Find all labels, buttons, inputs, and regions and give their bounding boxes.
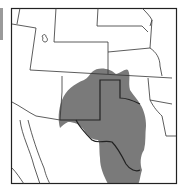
- range-map: [0, 0, 181, 194]
- range-area: [59, 68, 146, 184]
- lake-icon: [42, 35, 47, 42]
